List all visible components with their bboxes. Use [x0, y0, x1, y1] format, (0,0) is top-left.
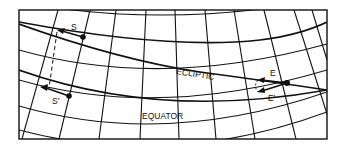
meridian-line — [22, 10, 58, 139]
point-s — [80, 34, 86, 40]
meridian-line — [234, 10, 255, 139]
arrow-e-prime-head — [257, 87, 265, 93]
meridian-line — [99, 10, 116, 139]
meridian-line — [264, 10, 296, 139]
parallel-line — [19, 44, 327, 69]
label-e-prime: E' — [268, 93, 276, 103]
meridian-line — [312, 10, 327, 60]
e-arc-dashed — [256, 80, 259, 92]
meridian-line — [294, 10, 335, 139]
label-ecliptic: ECLIPTIC — [176, 66, 215, 82]
point-s-prime — [66, 93, 72, 99]
label-equator: EQUATOR — [142, 111, 183, 121]
label-s-prime: S' — [52, 96, 60, 106]
label-e: E — [270, 68, 276, 78]
arrow-s-prime-head — [40, 84, 48, 91]
ecliptic-line — [19, 24, 327, 90]
parallel-line — [19, 0, 330, 15]
arrow-e-head — [257, 77, 265, 83]
celestial-diagram: S S' ECLIPTIC EQUATOR E E' — [0, 0, 341, 146]
label-s: S — [71, 22, 77, 32]
